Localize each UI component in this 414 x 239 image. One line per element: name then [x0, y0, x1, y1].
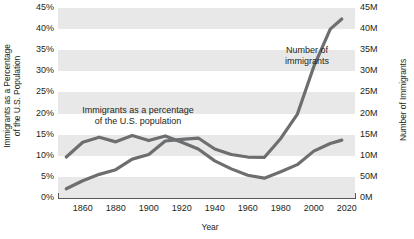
x-axis-line	[58, 198, 356, 199]
y-axis-right-tick-label: 35M	[360, 44, 394, 54]
y-axis-right-tick-label: 50M	[360, 171, 394, 181]
y-axis-right-tick-label: 40M	[360, 23, 394, 33]
y-axis-left-tick-label: 25%	[20, 86, 54, 96]
annotation-percentage-line2: of the U.S. population	[95, 116, 182, 126]
chart-container: Immigrants as a Percentage of the U.S. P…	[0, 0, 414, 239]
y-axis-left-tick-label: 20%	[20, 108, 54, 118]
y-axis-left-tick-label: 30%	[20, 65, 54, 75]
annotation-number-series: Number of immigrants	[258, 45, 356, 67]
y-axis-right-tick-label: 30M	[360, 65, 394, 75]
annotation-number-line2: immigrants	[285, 56, 329, 66]
y-axis-right-tick-label: 25M	[360, 86, 394, 96]
y-axis-right-line	[355, 193, 356, 199]
series-lines	[58, 8, 355, 198]
y-axis-left-tick-label: 10%	[20, 150, 54, 160]
y-axis-right-title: Number of Immigrants	[398, 25, 408, 175]
y-axis-left-line	[58, 193, 59, 199]
y-axis-left-tick-label: 40%	[20, 23, 54, 33]
x-axis-title-label: Year	[202, 222, 219, 232]
annotation-percentage-series: Immigrants as a percentage of the U.S. p…	[64, 105, 212, 127]
annotation-percentage-line1: Immigrants as a percentage	[82, 105, 194, 115]
y-axis-right-tick-label: 15M	[360, 129, 394, 139]
y-axis-left-tick-label: 15%	[20, 129, 54, 139]
y-axis-left-tick-label: 45%	[20, 2, 54, 12]
y-axis-right-title-label: Number of Immigrants	[398, 59, 408, 141]
y-axis-right-tick-label: 45M	[360, 2, 394, 12]
y-axis-left-title: Immigrants as a Percentage of the U.S. P…	[2, 21, 22, 171]
y-axis-left-tick-label: 5%	[20, 171, 54, 181]
x-axis-tick-label: 2020	[327, 203, 367, 213]
y-axis-right-tick-label: 0M	[360, 192, 394, 202]
x-axis-title: Year	[150, 222, 270, 232]
y-axis-left-title-line1: Immigrants as a Percentage	[2, 44, 12, 148]
y-axis-left-tick-label: 0%	[20, 192, 54, 202]
annotation-number-line1: Number of	[286, 45, 328, 55]
y-axis-right-tick-label: 10M	[360, 150, 394, 160]
y-axis-left-tick-label: 35%	[20, 44, 54, 54]
y-axis-right-tick-label: 20M	[360, 108, 394, 118]
plot-area	[58, 8, 355, 198]
